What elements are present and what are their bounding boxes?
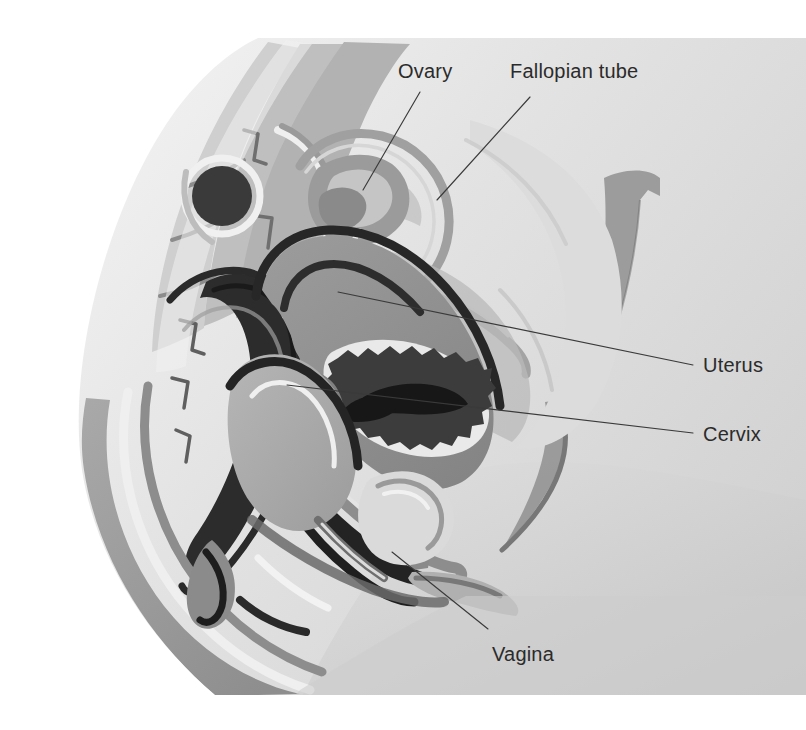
label-ovary: Ovary (398, 60, 452, 82)
anatomy-illustration: Ovary Fallopian tube Uterus Cervix Vagin… (0, 0, 806, 730)
bowel-loop (192, 166, 252, 226)
anatomy-figure: Ovary Fallopian tube Uterus Cervix Vagin… (0, 0, 806, 730)
label-fallopian-tube: Fallopian tube (510, 60, 638, 82)
label-uterus: Uterus (703, 354, 763, 376)
label-vagina: Vagina (492, 643, 555, 665)
label-cervix: Cervix (703, 423, 761, 445)
